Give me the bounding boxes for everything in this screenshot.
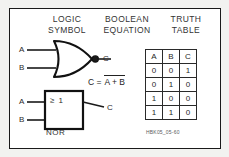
cell-b: 1: [163, 78, 180, 92]
cell-c: 0: [180, 106, 197, 120]
cell-a: 0: [146, 78, 163, 92]
table-row: 1 1 0: [146, 106, 197, 120]
truth-table: A B C 0 0 1 0 1 0 1 0 0 1 1: [145, 49, 197, 120]
gate2-input-b-label: B: [19, 115, 24, 124]
table-row: 0 0 1: [146, 64, 197, 78]
figure-caption: HBK05_05-60: [146, 129, 180, 135]
cell-c: 0: [180, 78, 197, 92]
gate1-input-b-label: B: [19, 63, 24, 72]
table-row: 1 0 0: [146, 92, 197, 106]
gate1-or-body: [54, 41, 92, 77]
cell-b: 1: [163, 106, 180, 120]
gate2-qualifier-label: ≥ 1: [50, 96, 64, 105]
boolean-equation: C = A + B: [88, 74, 125, 87]
column-header-a: A: [146, 50, 163, 64]
cell-b: 0: [163, 64, 180, 78]
table-header-row: A B C: [146, 50, 197, 64]
gate2-input-a-label: A: [19, 97, 24, 106]
equation-lhs: C =: [88, 77, 101, 87]
gate1-inversion-bubble-icon: [92, 56, 98, 62]
equation-overbar-expression: A + B: [104, 75, 125, 87]
gate1-output-label: C: [103, 54, 109, 63]
gate2-output-wire: [83, 102, 104, 107]
cell-a: 1: [146, 92, 163, 106]
cell-c: 1: [180, 64, 197, 78]
gate1-input-a-label: A: [19, 45, 24, 54]
cell-b: 0: [163, 92, 180, 106]
column-header-b: B: [163, 50, 180, 64]
gate2-name-label: NOR: [46, 128, 65, 137]
table-row: 0 1 0: [146, 78, 197, 92]
cell-c: 0: [180, 92, 197, 106]
column-header-c: C: [180, 50, 197, 64]
cell-a: 1: [146, 106, 163, 120]
cell-a: 0: [146, 64, 163, 78]
figure-nor-gate: LOGIC SYMBOL BOOLEAN EQUATION TRUTH TABL…: [0, 0, 229, 157]
gate2-output-label: C: [107, 103, 113, 112]
